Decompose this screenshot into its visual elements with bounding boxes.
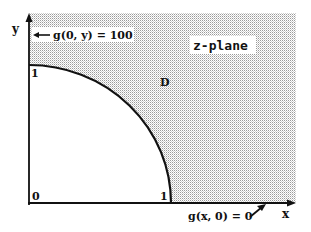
region-label: D bbox=[160, 76, 170, 89]
x-axis-boundary-condition: g(x, 0) = 0 bbox=[188, 210, 253, 223]
x-tick-label-1: 1 bbox=[160, 190, 168, 203]
y-tick-label-1: 1 bbox=[31, 67, 39, 80]
y-axis-boundary-condition: g(0, y) = 100 bbox=[53, 29, 133, 42]
x-axis-label: x bbox=[282, 207, 290, 221]
origin-label: 0 bbox=[32, 190, 40, 203]
y-axis-label: y bbox=[11, 22, 20, 36]
plane-label: z-plane bbox=[193, 38, 248, 53]
z-plane-diagram: y x 0 1 1 g(0, y) = 100 z-plane D g(x, 0… bbox=[0, 0, 311, 232]
